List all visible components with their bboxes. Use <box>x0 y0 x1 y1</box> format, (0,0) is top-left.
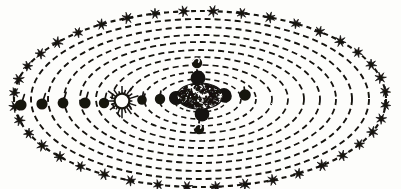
fixed-star <box>14 115 25 126</box>
fixed-star <box>267 174 278 185</box>
fixed-star <box>366 59 377 70</box>
planet-outer-5-disc <box>99 98 109 108</box>
sun-symbol <box>106 86 139 118</box>
diagram-canvas <box>0 0 401 189</box>
fixed-star <box>314 26 325 37</box>
fixed-star <box>352 47 362 57</box>
sun-disc <box>115 94 130 109</box>
fixed-star <box>153 180 163 189</box>
fixed-star <box>291 19 301 29</box>
fixed-star <box>52 37 63 48</box>
fixed-star <box>376 114 387 125</box>
fixed-star <box>35 48 46 59</box>
planet-outer-1-disc <box>15 99 26 110</box>
fixed-star <box>23 61 33 71</box>
planet-outer-3 <box>58 92 69 108</box>
fixed-star <box>73 28 83 38</box>
planet-outer-3-disc <box>58 98 69 109</box>
planet-venus-disc <box>155 94 165 104</box>
central-core-group <box>169 71 231 122</box>
planet-outer-2-disc <box>36 98 47 109</box>
fixed-star <box>98 169 109 180</box>
sun-ray <box>129 103 136 105</box>
planet-far-right-disc <box>239 89 251 101</box>
fixed-star <box>211 181 221 189</box>
planet-outer-2 <box>36 94 47 110</box>
moon-north-hooked <box>192 58 202 68</box>
fixed-star <box>54 151 65 162</box>
fixed-star <box>335 35 346 46</box>
planet-outer-4-disc <box>79 97 90 108</box>
fixed-star <box>375 72 386 84</box>
planet-far-right <box>239 87 251 101</box>
sun-ray <box>129 96 138 99</box>
fixed-star <box>337 150 348 161</box>
sun-group <box>106 86 139 118</box>
fixed-star <box>181 182 192 189</box>
fixed-star <box>75 161 85 171</box>
cosmology-diagram <box>0 0 401 189</box>
fixed-star <box>13 74 24 85</box>
planet-outer-1 <box>15 95 26 111</box>
fixed-star <box>316 160 328 171</box>
fixed-star <box>239 179 251 189</box>
fixed-star <box>179 6 190 17</box>
moon-south-hooked <box>194 124 204 134</box>
planet-venus <box>155 91 165 104</box>
planet-mercury-disc <box>137 95 147 105</box>
